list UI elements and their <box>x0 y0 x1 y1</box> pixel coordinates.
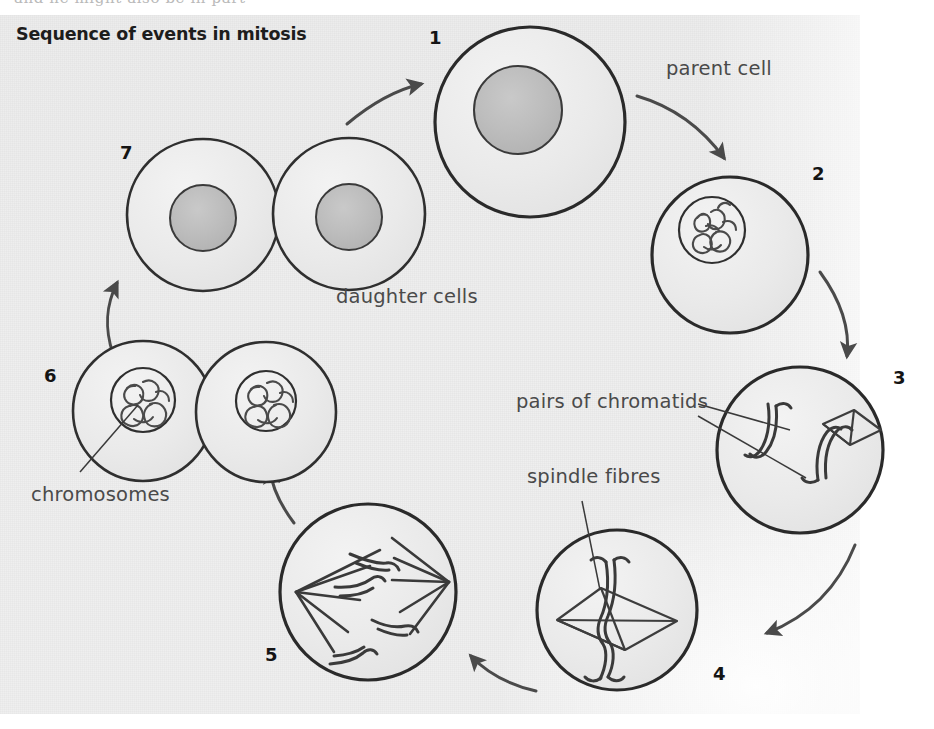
cell-4-metaphase <box>537 530 697 690</box>
cell-6-telophase <box>73 341 336 482</box>
step-number-3: 3 <box>893 367 906 388</box>
cell-3-chromatid-pairs <box>717 367 883 533</box>
arrow-3-to-4 <box>767 545 855 633</box>
step-number-5: 5 <box>265 644 278 665</box>
cell-7-daughter-cells <box>127 138 425 291</box>
step-number-1: 1 <box>429 27 442 48</box>
arrow-4-to-5 <box>471 656 536 691</box>
step-number-4: 4 <box>713 663 726 684</box>
label-parent-cell: parent cell <box>666 57 772 80</box>
mitosis-diagram-page: and he might also be in part Sequence of… <box>0 0 934 729</box>
cell-2-prophase <box>652 177 808 333</box>
arrow-6-to-7 <box>107 283 117 354</box>
step-number-6: 6 <box>44 365 57 386</box>
cell-1-parent <box>435 27 625 217</box>
diagram-canvas <box>0 0 934 729</box>
label-spindle-fibres: spindle fibres <box>527 465 661 488</box>
arrow-1-to-2 <box>637 96 724 158</box>
step-number-2: 2 <box>812 163 825 184</box>
step-number-7: 7 <box>120 142 133 163</box>
label-chromosomes: chromosomes <box>31 483 170 506</box>
label-pairs-of-chromatids: pairs of chromatids <box>516 390 708 413</box>
arrow-2-to-3 <box>820 272 848 356</box>
label-daughter-cells: daughter cells <box>336 285 478 308</box>
arrow-7-to-1 <box>347 84 421 124</box>
cell-5-anaphase <box>280 504 456 680</box>
